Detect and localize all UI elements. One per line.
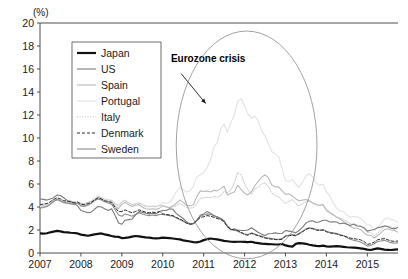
y-tick-label: 4 [28, 201, 34, 213]
legend-label-us: US [101, 63, 116, 75]
y-tick-label: 12 [22, 109, 34, 121]
legend-label-spain: Spain [101, 79, 128, 91]
x-tick-label: 2009 [110, 258, 134, 270]
x-tick-label: 2014 [315, 258, 339, 270]
y-tick-label: 6 [28, 178, 34, 190]
y-tick-label: 0 [28, 247, 34, 259]
x-tick-label: 2008 [69, 258, 93, 270]
x-tick-label: 2015 [356, 258, 380, 270]
y-tick-label: 16 [22, 63, 34, 75]
legend-label-sweden: Sweden [101, 143, 139, 155]
x-tick-label: 2010 [151, 258, 175, 270]
x-tick-label: 2011 [192, 258, 215, 270]
y-tick-label: 2 [28, 224, 34, 236]
y-tick-label: 20 [22, 17, 34, 29]
chart-legend: JapanUSSpainPortugalItalyDenmarkSweden [72, 42, 161, 158]
x-axis-ticks: 200720082009201020112012201320142015 [28, 253, 379, 270]
x-tick-label: 2007 [28, 258, 52, 270]
legend-label-denmark: Denmark [101, 127, 144, 139]
y-tick-label: 10 [22, 132, 34, 144]
y-tick-label: 8 [28, 155, 34, 167]
y-tick-label: 18 [22, 40, 34, 52]
y-tick-label: 14 [22, 86, 34, 98]
chart-container: 02468101214161820 2007200820092010201120… [0, 0, 408, 279]
legend-label-japan: Japan [101, 47, 130, 59]
x-tick-label: 2013 [274, 258, 298, 270]
line-chart: 02468101214161820 2007200820092010201120… [0, 0, 408, 279]
x-tick-label: 2012 [233, 258, 257, 270]
y-axis-label: (%) [33, 7, 49, 18]
legend-label-italy: Italy [101, 111, 121, 123]
legend-label-portugal: Portugal [101, 95, 140, 107]
eurozone-crisis-label: Eurozone crisis [171, 53, 246, 64]
